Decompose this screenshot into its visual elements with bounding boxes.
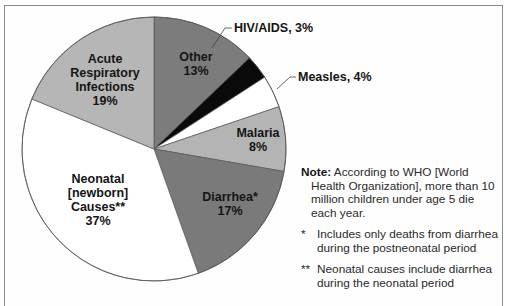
footnote-1-text: Includes only deaths from diarrhea durin… [317, 227, 498, 255]
label-neonatal-line1: Neonatal [58, 172, 138, 186]
label-ari-pct: 19% [62, 94, 148, 108]
footnote-2: ** Neonatal causes include diarrhea duri… [301, 263, 501, 290]
label-ari-line3: Infections [62, 80, 148, 94]
footnote-1: * Includes only deaths from diarrhea dur… [301, 228, 501, 255]
label-neonatal-line2: [newborn] [58, 186, 138, 200]
label-other-name: Other [168, 50, 224, 64]
label-neonatal-pct: 37% [58, 214, 138, 228]
label-other: Other 13% [168, 50, 224, 78]
label-ari-line2: Respiratory [62, 66, 148, 80]
label-other-pct: 13% [168, 64, 224, 78]
footnote-2-mark: ** [301, 263, 310, 277]
measles-leader-line [277, 77, 296, 89]
label-malaria-pct: 8% [228, 140, 288, 154]
label-measles: Measles, 4% [298, 70, 372, 84]
note-label: Note: [301, 165, 331, 179]
note-text: According to WHO [World Health Organizat… [311, 165, 495, 220]
label-diarrhea-name: Diarrhea* [195, 190, 265, 204]
label-neonatal-line3: Causes** [58, 200, 138, 214]
label-malaria: Malaria 8% [228, 126, 288, 154]
note-main: Note: According to WHO [World Health Org… [301, 166, 501, 220]
label-diarrhea: Diarrhea* 17% [195, 190, 265, 218]
note-block: Note: According to WHO [World Health Org… [301, 166, 501, 290]
label-diarrhea-pct: 17% [195, 204, 265, 218]
footnote-2-text: Neonatal causes include diarrhea during … [317, 262, 492, 290]
label-malaria-name: Malaria [228, 126, 288, 140]
label-hiv: HIV/AIDS, 3% [234, 21, 313, 35]
label-neonatal: Neonatal [newborn] Causes** 37% [58, 172, 138, 228]
label-ari-line1: Acute [62, 52, 148, 66]
footnote-1-mark: * [301, 228, 306, 242]
label-ari: Acute Respiratory Infections 19% [62, 52, 148, 108]
